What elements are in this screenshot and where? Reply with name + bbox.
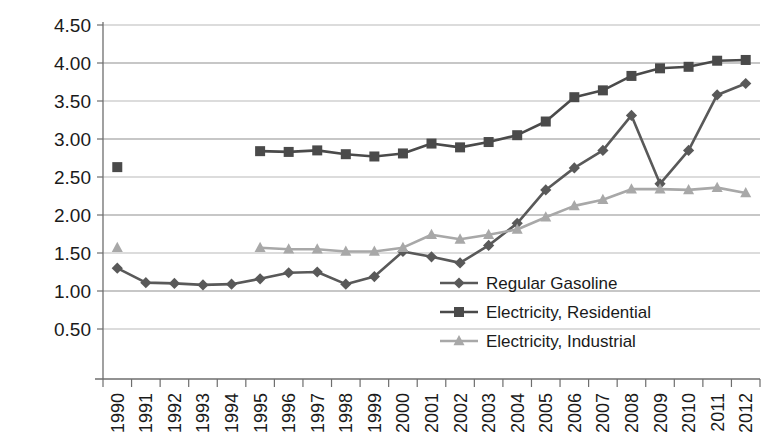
data-point-marker bbox=[427, 139, 437, 149]
data-point-marker bbox=[341, 149, 351, 159]
data-point-marker bbox=[712, 56, 722, 66]
x-axis bbox=[95, 379, 760, 387]
data-point-marker bbox=[455, 142, 465, 152]
y-tick-label: 2.00 bbox=[54, 205, 91, 226]
data-point-marker bbox=[340, 279, 351, 290]
data-series-layer bbox=[112, 55, 752, 291]
data-point-marker bbox=[226, 279, 237, 290]
data-point-marker bbox=[369, 151, 379, 161]
data-point-marker bbox=[712, 89, 723, 100]
x-tick-label: 2007 bbox=[593, 393, 613, 433]
x-tick-label: 2000 bbox=[393, 393, 413, 433]
chart-canvas: 0.501.001.502.002.503.003.504.004.50 199… bbox=[0, 0, 767, 435]
x-tick-label: 1992 bbox=[165, 393, 185, 433]
legend-item[interactable]: Regular Gasoline bbox=[440, 274, 617, 293]
x-tick-label: 2006 bbox=[565, 393, 585, 433]
data-point-marker bbox=[541, 117, 551, 127]
x-tick-label: 2004 bbox=[508, 393, 528, 433]
data-point-marker bbox=[255, 146, 265, 156]
data-point-marker bbox=[255, 273, 266, 284]
y-tick-label: 0.50 bbox=[54, 319, 91, 340]
legend-item[interactable]: Electricity, Industrial bbox=[440, 332, 636, 351]
data-point-marker bbox=[453, 277, 464, 288]
series-regular-gasoline bbox=[112, 78, 752, 291]
x-tick-label: 2011 bbox=[708, 393, 728, 432]
series-line bbox=[260, 188, 746, 252]
x-tick-label: 1996 bbox=[279, 393, 299, 433]
data-point-marker bbox=[112, 263, 123, 274]
y-tick-label: 4.00 bbox=[54, 53, 91, 74]
data-point-marker bbox=[169, 278, 180, 289]
x-tick-label: 1993 bbox=[193, 393, 213, 433]
data-point-marker bbox=[426, 229, 437, 239]
x-tick-label: 1995 bbox=[251, 393, 271, 433]
data-point-marker bbox=[655, 63, 665, 73]
x-tick-label: 2012 bbox=[736, 393, 756, 433]
data-point-marker bbox=[284, 147, 294, 157]
y-tick-label: 2.50 bbox=[54, 167, 91, 188]
x-tick-label: 1998 bbox=[336, 393, 356, 433]
y-tick-label: 3.50 bbox=[54, 91, 91, 112]
x-tick-label: 1999 bbox=[365, 393, 385, 433]
data-point-marker bbox=[626, 71, 636, 81]
data-point-marker bbox=[741, 55, 751, 65]
chart-legend: Regular GasolineElectricity, Residential… bbox=[440, 274, 651, 351]
data-point-marker bbox=[512, 130, 522, 140]
data-point-marker bbox=[684, 62, 694, 72]
y-tick-label: 1.00 bbox=[54, 281, 91, 302]
price-trend-line-chart: 0.501.001.502.002.503.003.504.004.50 199… bbox=[0, 0, 767, 435]
data-point-marker bbox=[197, 279, 208, 290]
data-point-marker bbox=[569, 92, 579, 102]
y-axis-tick-labels: 0.501.001.502.002.503.003.504.004.50 bbox=[54, 15, 91, 340]
data-point-marker bbox=[283, 267, 294, 278]
data-point-marker bbox=[140, 277, 151, 288]
data-point-marker bbox=[312, 266, 323, 277]
data-point-marker bbox=[398, 148, 408, 158]
y-tick-label: 3.00 bbox=[54, 129, 91, 150]
x-tick-label: 2003 bbox=[479, 393, 499, 433]
data-point-marker bbox=[112, 162, 122, 172]
legend-label: Electricity, Residential bbox=[486, 303, 651, 322]
x-axis-tick-labels: 1990199119921993199419951996199719981999… bbox=[108, 393, 756, 433]
x-tick-label: 1994 bbox=[222, 393, 242, 433]
x-tick-label: 2010 bbox=[679, 393, 699, 433]
data-point-marker bbox=[454, 307, 464, 317]
x-tick-label: 2002 bbox=[451, 393, 471, 433]
x-tick-label: 2001 bbox=[422, 393, 442, 433]
legend-label: Electricity, Industrial bbox=[486, 332, 636, 351]
x-tick-label: 2008 bbox=[622, 393, 642, 433]
x-tick-label: 2005 bbox=[536, 393, 556, 433]
legend-item[interactable]: Electricity, Residential bbox=[440, 303, 651, 322]
x-tick-label: 1990 bbox=[108, 393, 128, 433]
x-tick-label: 1997 bbox=[308, 393, 328, 433]
data-point-marker bbox=[112, 242, 123, 252]
y-tick-label: 4.50 bbox=[54, 15, 91, 36]
series-line bbox=[260, 60, 746, 157]
data-point-marker bbox=[598, 85, 608, 95]
data-point-marker bbox=[312, 145, 322, 155]
legend-label: Regular Gasoline bbox=[486, 274, 617, 293]
x-tick-label: 2009 bbox=[651, 393, 671, 433]
data-point-marker bbox=[484, 137, 494, 147]
data-point-marker bbox=[740, 78, 751, 89]
y-axis bbox=[97, 22, 103, 379]
series-electricity-residential bbox=[112, 55, 750, 172]
series-electricity-industrial bbox=[112, 182, 751, 256]
x-tick-label: 1991 bbox=[136, 393, 156, 433]
y-tick-label: 1.50 bbox=[54, 243, 91, 264]
